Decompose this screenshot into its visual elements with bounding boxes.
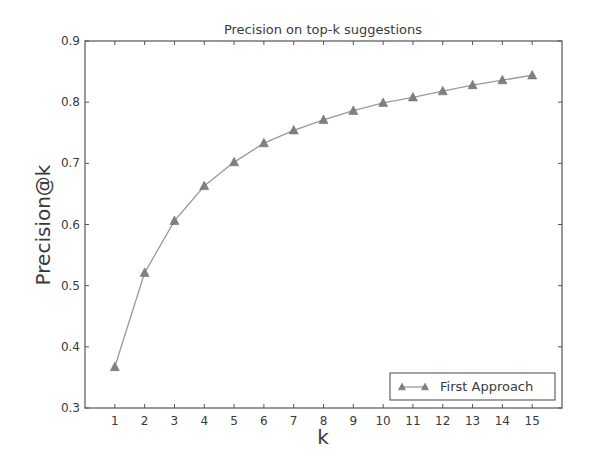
y-tick-label: 0.9: [61, 34, 80, 48]
y-axis-ticks: 0.30.40.50.60.70.80.9: [61, 34, 562, 415]
x-tick-label: 14: [495, 414, 510, 428]
x-tick-label: 2: [141, 414, 149, 428]
plot-frame: [85, 41, 562, 408]
x-tick-label: 11: [405, 414, 420, 428]
x-tick-label: 12: [435, 414, 450, 428]
x-tick-label: 7: [290, 414, 298, 428]
triangle-marker-icon: [140, 268, 149, 277]
x-tick-label: 10: [375, 414, 390, 428]
x-tick-label: 5: [230, 414, 238, 428]
plot-area-border: [85, 41, 562, 408]
x-tick-label: 15: [525, 414, 540, 428]
x-tick-label: 9: [349, 414, 357, 428]
legend-label: First Approach: [440, 379, 533, 394]
triangle-marker-icon: [200, 181, 209, 190]
x-tick-label: 13: [465, 414, 480, 428]
legend: First Approach: [390, 373, 555, 400]
y-axis-label: Precision@k: [31, 164, 55, 285]
x-tick-label: 6: [260, 414, 268, 428]
series-first-approach: [110, 70, 536, 370]
y-tick-label: 0.7: [61, 156, 80, 170]
x-tick-label: 3: [171, 414, 179, 428]
x-tick-label: 4: [200, 414, 208, 428]
y-tick-label: 0.8: [61, 95, 80, 109]
triangle-marker-icon: [110, 362, 119, 371]
x-axis-ticks: 123456789101112131415: [111, 41, 540, 428]
x-axis-label: k: [317, 425, 329, 449]
triangle-marker-icon: [230, 157, 239, 166]
y-tick-label: 0.4: [61, 340, 80, 354]
triangle-marker-icon: [259, 138, 268, 147]
y-tick-label: 0.5: [61, 279, 80, 293]
y-tick-label: 0.6: [61, 218, 80, 232]
x-tick-label: 1: [111, 414, 119, 428]
triangle-marker-icon: [528, 70, 537, 79]
chart-title: Precision on top-k suggestions: [224, 22, 422, 37]
y-tick-label: 0.3: [61, 401, 80, 415]
line-chart: Precision on top-k suggestions 123456789…: [0, 0, 591, 472]
